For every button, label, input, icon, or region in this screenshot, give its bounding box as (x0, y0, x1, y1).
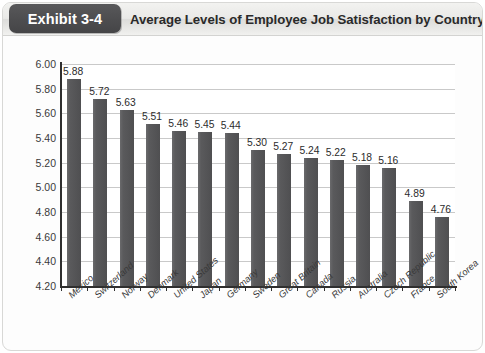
chart-title: Average Levels of Employee Job Satisfact… (130, 3, 483, 36)
x-axis-category-label: South Korea (434, 257, 480, 300)
exhibit-header: Exhibit 3-4 Average Levels of Employee J… (3, 3, 483, 36)
x-axis-category-label: Mexico (66, 272, 95, 300)
exhibit-card: Exhibit 3-4 Average Levels of Employee J… (2, 2, 483, 351)
x-axis-category-labels: MexicoSwitzerlandNorwayDenmarkUnited Sta… (3, 36, 483, 351)
exhibit-number-badge: Exhibit 3-4 (9, 4, 121, 33)
chart-body: 6.005.805.605.405.205.004.804.604.404.20… (3, 36, 483, 351)
exhibit-number-label: Exhibit 3-4 (28, 11, 102, 27)
